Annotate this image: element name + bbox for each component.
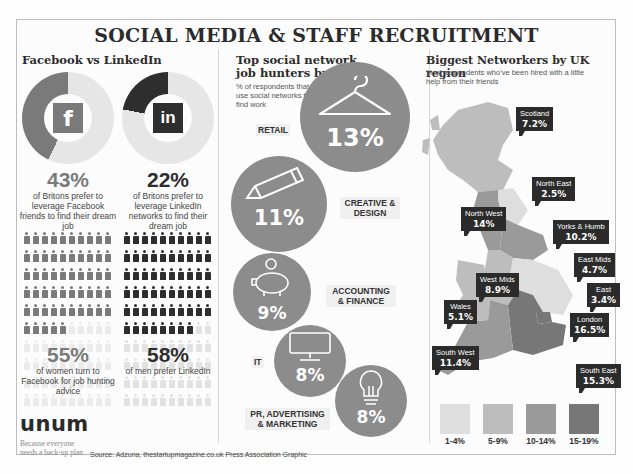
facebook-description: of Britons prefer to leverage Facebook f… bbox=[18, 191, 118, 231]
person-icon bbox=[158, 284, 167, 302]
person-icon bbox=[76, 266, 85, 284]
piggy-bank-icon bbox=[247, 257, 297, 297]
person-icon bbox=[194, 248, 203, 266]
callout-london: London 16.5% bbox=[570, 313, 609, 337]
callout-south-west: South West 11.4% bbox=[432, 346, 479, 370]
person-icon bbox=[122, 248, 131, 266]
person-icon bbox=[167, 266, 176, 284]
person-icon bbox=[103, 248, 112, 266]
person-icon bbox=[103, 284, 112, 302]
person-icon bbox=[76, 320, 85, 338]
person-icon bbox=[203, 320, 212, 338]
accounting-label: ACCOUNTING & FINANCE bbox=[326, 285, 396, 307]
person-icon bbox=[176, 266, 185, 284]
person-icon bbox=[49, 320, 58, 338]
person-icon bbox=[49, 302, 58, 320]
legend-label-5-9: 5-9% bbox=[478, 436, 518, 446]
person-icon bbox=[167, 320, 176, 338]
person-icon bbox=[76, 248, 85, 266]
person-icon bbox=[194, 266, 203, 284]
person-icon bbox=[140, 392, 149, 410]
callout-south-east: South East 15.3% bbox=[576, 364, 621, 388]
person-icon bbox=[158, 392, 167, 410]
person-icon bbox=[31, 302, 40, 320]
person-icon bbox=[176, 230, 185, 248]
person-icon bbox=[131, 248, 140, 266]
person-icon bbox=[185, 302, 194, 320]
person-icon bbox=[176, 248, 185, 266]
person-icon bbox=[131, 302, 140, 320]
linkedin-percent: 22% bbox=[118, 168, 218, 192]
person-icon bbox=[85, 320, 94, 338]
region-london bbox=[536, 312, 552, 324]
person-icon bbox=[167, 230, 176, 248]
person-icon bbox=[158, 374, 167, 392]
it-label: IT bbox=[252, 356, 264, 368]
callout-east: East 3.4% bbox=[587, 283, 620, 307]
person-icon bbox=[85, 302, 94, 320]
person-icon bbox=[122, 284, 131, 302]
person-icon bbox=[131, 284, 140, 302]
person-icon bbox=[94, 248, 103, 266]
legend-label-1-4: 1-4% bbox=[435, 436, 475, 446]
callout-wales: Wales 5.1% bbox=[444, 300, 477, 324]
person-icon bbox=[158, 230, 167, 248]
retail-value: 13% bbox=[300, 124, 410, 152]
person-icon bbox=[85, 248, 94, 266]
person-icon bbox=[158, 302, 167, 320]
accounting-bubble: 9% bbox=[233, 253, 311, 331]
men-description: of men prefer LinkedIn bbox=[118, 366, 218, 376]
person-icon bbox=[185, 284, 194, 302]
person-icon bbox=[149, 230, 158, 248]
callout-east-mids: East Mids 4.7% bbox=[574, 253, 615, 277]
person-icon bbox=[103, 320, 112, 338]
person-icon bbox=[158, 266, 167, 284]
creative-bubble: 11% bbox=[231, 156, 327, 252]
retail-label: RETAIL bbox=[256, 124, 290, 136]
unum-tagline: Because everyone needs a back-up plan bbox=[20, 440, 83, 457]
facebook-percent: 43% bbox=[18, 168, 118, 192]
person-icon bbox=[40, 230, 49, 248]
person-icon bbox=[131, 374, 140, 392]
person-icon bbox=[176, 320, 185, 338]
pr-value: 8% bbox=[335, 407, 407, 427]
person-icon bbox=[140, 320, 149, 338]
person-icon bbox=[94, 230, 103, 248]
person-icon bbox=[22, 302, 31, 320]
person-icon bbox=[76, 284, 85, 302]
person-icon bbox=[176, 374, 185, 392]
person-icon bbox=[76, 230, 85, 248]
person-icon bbox=[67, 230, 76, 248]
person-icon bbox=[140, 266, 149, 284]
person-icon bbox=[167, 302, 176, 320]
facebook-icon: f bbox=[53, 103, 83, 133]
person-icon bbox=[49, 230, 58, 248]
facebook-vs-linkedin-title: Facebook vs LinkedIn bbox=[22, 54, 162, 67]
linkedin-description: of Britons prefer to leverage LinkedIn n… bbox=[118, 191, 218, 231]
person-icon bbox=[67, 302, 76, 320]
person-icon bbox=[67, 248, 76, 266]
person-icon bbox=[40, 320, 49, 338]
callout-scotland: Scotland 7.2% bbox=[516, 107, 553, 131]
person-icon bbox=[149, 302, 158, 320]
person-icon bbox=[131, 320, 140, 338]
person-icon bbox=[176, 392, 185, 410]
person-icon bbox=[67, 320, 76, 338]
person-icon bbox=[49, 284, 58, 302]
person-icon bbox=[194, 392, 203, 410]
legend-label-10-14: 10-14% bbox=[521, 436, 561, 446]
person-icon bbox=[49, 266, 58, 284]
callout-north-east: North East 2.5% bbox=[532, 177, 575, 201]
person-icon bbox=[122, 374, 131, 392]
person-icon bbox=[185, 392, 194, 410]
person-icon bbox=[167, 392, 176, 410]
person-icon bbox=[203, 248, 212, 266]
facebook-donut-chart: f bbox=[22, 72, 114, 164]
men-percent: 58% bbox=[118, 343, 218, 367]
person-icon bbox=[167, 284, 176, 302]
unum-logo: unum bbox=[20, 412, 89, 436]
linkedin-icon: in bbox=[153, 103, 183, 133]
person-icon bbox=[22, 284, 31, 302]
person-icon bbox=[67, 266, 76, 284]
pr-label: PR, ADVERTISING & MARKETING bbox=[245, 408, 330, 430]
